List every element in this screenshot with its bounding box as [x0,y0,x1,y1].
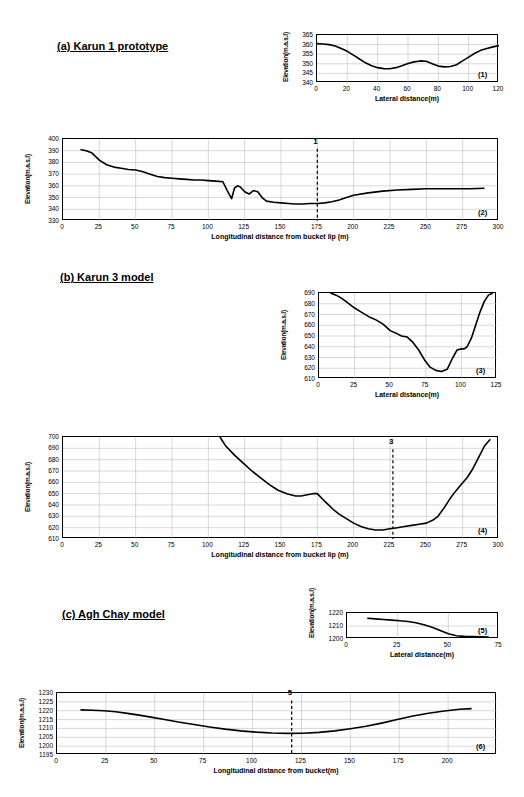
section-label-a: (a) Karun 1 prototype [57,40,168,52]
x-axis-tick: 0 [54,757,58,764]
x-axis-tick: 100 [455,381,466,388]
x-axis-tick: 125 [491,381,502,388]
x-axis-tick: 100 [202,541,213,548]
y-axis-label: Elevation(m.a.s.l) [18,692,25,754]
chart-2: 3303403503603703803904000255075100125150… [16,130,506,250]
x-axis-tick: 125 [238,541,249,548]
y-axis-tick: 660 [38,478,59,485]
plot-svg [319,293,497,379]
section-label-b: (b) Karun 3 model [60,271,154,283]
x-axis-tick: 125 [238,223,249,230]
x-axis-tick: 275 [456,541,467,548]
y-axis-tick: 370 [38,170,59,177]
x-axis-tick: 175 [311,223,322,230]
y-axis-tick: 350 [292,59,313,66]
y-axis-tick: 1210 [322,622,343,629]
x-axis-tick: 225 [384,541,395,548]
y-axis-tick: 380 [38,158,59,165]
chart-1: 340345350355360365020406080100120Lateral… [274,28,504,108]
y-axis-tick: 390 [38,146,59,153]
x-axis-tick: 50 [150,757,157,764]
section-marker-label: 3 [389,437,393,446]
x-axis-tick: 75 [199,757,206,764]
x-axis-tick: 50 [131,541,138,548]
y-axis-tick: 680 [294,299,315,306]
x-axis-tick: 250 [420,223,431,230]
y-axis-label: Elevation(m.a.s.l) [280,292,287,378]
y-axis-tick: 620 [38,523,59,530]
y-axis-label: Elevation(m.a.s.l) [282,34,289,82]
y-axis-tick: 610 [38,535,59,542]
x-axis-tick: 225 [384,223,395,230]
y-axis-tick: 640 [38,501,59,508]
y-axis-tick: 700 [38,433,59,440]
data-series-line [80,709,471,734]
x-axis-tick: 150 [275,223,286,230]
data-series-line [220,437,490,530]
panel-id-label: (6) [476,742,485,751]
x-axis-tick: 0 [60,223,64,230]
x-axis-tick: 0 [316,381,320,388]
y-axis-tick: 1220 [32,706,53,713]
y-axis-tick: 620 [294,364,315,371]
x-axis-tick: 150 [344,757,355,764]
y-axis-tick: 360 [292,40,313,47]
x-axis-tick: 100 [202,223,213,230]
x-axis-tick: 25 [95,541,102,548]
x-axis-tick: 300 [493,223,504,230]
x-axis-tick: 40 [373,85,380,92]
x-axis-tick: 75 [494,641,501,648]
plot-area [346,612,498,638]
y-axis-tick: 350 [38,193,59,200]
chart-3: 6106206306406506606706806900255075100125… [272,286,504,406]
x-axis-tick: 50 [444,641,451,648]
figure-page: (a) Karun 1 prototype (b) Karun 3 model … [0,0,524,797]
x-axis-label: Lateral distance(m) [318,391,496,398]
plot-svg [317,35,499,83]
section-label-c: (c) Agh Chay model [62,608,165,620]
plot-area [62,138,498,220]
y-axis-tick: 1195 [32,751,53,758]
x-axis-tick: 100 [246,757,257,764]
x-axis-tick: 200 [347,541,358,548]
y-axis-tick: 670 [294,310,315,317]
x-axis-tick: 60 [403,85,410,92]
x-axis-tick: 100 [462,85,473,92]
x-axis-tick: 75 [421,381,428,388]
x-axis-label: Lateral distance(m) [346,651,498,658]
y-axis-tick: 650 [38,489,59,496]
panel-id-label: (5) [478,626,487,635]
y-axis-tick: 610 [294,375,315,382]
x-axis-label: Longitudinal distance from bucket lip (m… [62,233,498,240]
y-axis-tick: 680 [38,455,59,462]
x-axis-tick: 150 [275,541,286,548]
y-axis-tick: 1225 [32,697,53,704]
x-axis-tick: 0 [344,641,348,648]
x-axis-tick: 50 [386,381,393,388]
x-axis-tick: 50 [131,223,138,230]
y-axis-tick: 630 [38,512,59,519]
y-axis-tick: 340 [38,205,59,212]
chart-4: 6106206306406506606706806907000255075100… [16,428,506,568]
y-axis-tick: 1215 [32,715,53,722]
panel-id-label: (4) [478,526,487,535]
y-axis-tick: 670 [38,467,59,474]
x-axis-tick: 175 [393,757,404,764]
panel-id-label: (1) [478,70,487,79]
x-axis-tick: 0 [314,85,318,92]
y-axis-tick: 690 [294,289,315,296]
section-marker-label: 1 [313,137,317,146]
y-axis-tick: 340 [292,79,313,86]
y-axis-tick: 1200 [322,635,343,642]
x-axis-tick: 25 [350,381,357,388]
plot-svg [63,139,499,221]
x-axis-tick: 300 [493,541,504,548]
x-axis-tick: 75 [167,223,174,230]
x-axis-tick: 25 [101,757,108,764]
y-axis-tick: 640 [294,342,315,349]
x-axis-label: Lateral distance(m) [316,95,498,102]
x-axis-tick: 75 [167,541,174,548]
y-axis-tick: 660 [294,321,315,328]
y-axis-label: Elevation(m.a.s.l) [24,138,31,220]
x-axis-tick: 200 [347,223,358,230]
